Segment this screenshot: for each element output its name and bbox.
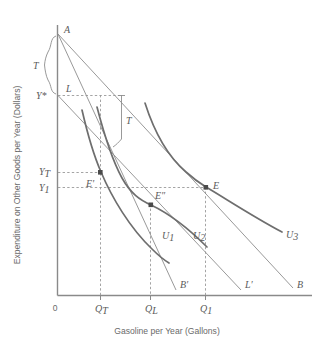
label-point-e-prime: E' [85, 178, 95, 189]
label-point-e: E [212, 180, 219, 191]
point-markers-group [98, 170, 208, 207]
label-origin: 0 [53, 303, 58, 313]
label-point-e-double-prime: E″ [154, 190, 166, 201]
label-q-l: QL [145, 303, 158, 316]
point-marker-e-prime [98, 170, 103, 175]
y-axis-title: Expenditure on Other Goods per Year (Dol… [12, 55, 22, 295]
indifference-curve-u1 [82, 110, 169, 263]
gasoline-tax-indifference-curve-figure: A T T Y* L YT Y1 E' E″ E [0, 0, 334, 349]
label-y-t: YT [39, 166, 52, 179]
label-q-t-sub: T [102, 305, 109, 316]
point-marker-e [204, 185, 209, 190]
tax-brace-left-path [45, 36, 57, 94]
tax-brace-left [45, 36, 57, 94]
label-q-1: Q1 [200, 303, 212, 316]
point-marker-e-double-prime [149, 203, 154, 208]
label-q-1-sub: 1 [207, 305, 212, 316]
label-line-b-prime: B′ [180, 279, 189, 290]
label-tax-brace-mid: T [126, 115, 133, 126]
label-u2-sub: 2 [200, 232, 205, 243]
label-y-1: Y1 [39, 182, 50, 195]
indifference-curves-group [82, 103, 282, 263]
label-y-1-sub: 1 [45, 184, 50, 195]
label-curve-u1: U1 [162, 230, 174, 243]
label-line-b: B [297, 279, 303, 290]
label-q-t: QT [95, 303, 109, 316]
label-point-a: A [63, 24, 71, 35]
x-axis-title: Gasoline per Year (Gallons) [0, 326, 334, 336]
label-u3-sub: 3 [292, 231, 298, 242]
tax-wedge-arrowfoot [113, 139, 122, 147]
label-curve-u3: U3 [286, 229, 298, 242]
label-line-l-prime: L′ [244, 279, 254, 290]
label-y-star: Y* [36, 90, 47, 101]
tax-wedge-mid [113, 95, 125, 147]
label-y-t-sub: T [45, 168, 52, 179]
label-q-l-sub: L [151, 305, 158, 316]
label-u1-sub: 1 [169, 232, 174, 243]
budget-line-ab-prime [58, 34, 176, 290]
label-line-l: L [65, 83, 72, 94]
plot-canvas: A T T Y* L YT Y1 E' E″ E [0, 0, 334, 349]
label-tax-brace-top: T [33, 60, 40, 71]
